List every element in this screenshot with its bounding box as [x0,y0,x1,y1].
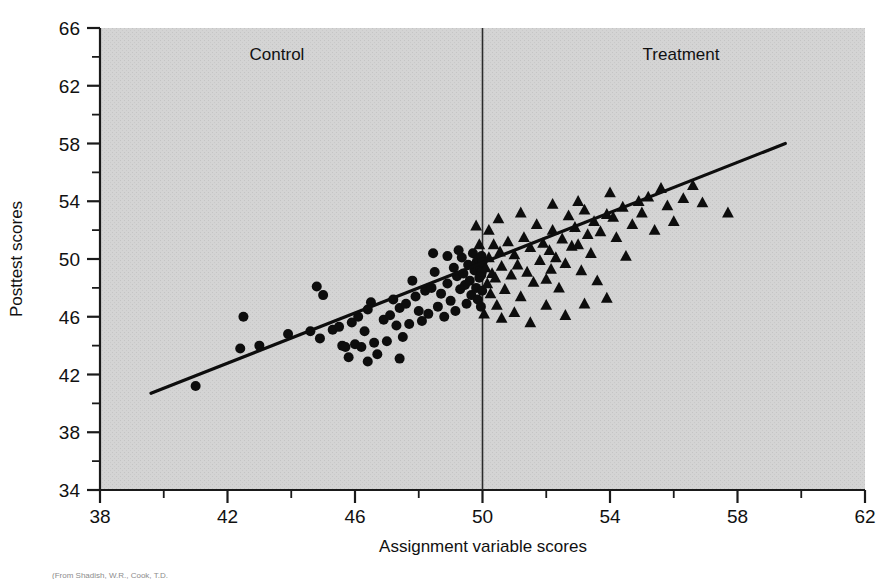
circle-marker [356,342,366,352]
y-axis-tick-label: 50 [59,249,80,270]
source-caption: (From Shadish, W.R., Cook, T.D. [52,571,168,579]
circle-marker [433,302,443,312]
circle-marker [407,276,417,286]
circle-marker [450,306,460,316]
scatter-plot-svg: 38424650545862 666258545046423834 Contro… [0,0,896,579]
x-axis-title: Assignment variable scores [379,537,587,556]
x-axis-tick-labels: 38424650545862 [89,506,875,527]
y-axis-tick-label: 54 [59,191,81,212]
y-axis-title: Posttest scores [7,201,26,317]
x-axis-tick-label: 38 [89,506,110,527]
circle-marker [191,381,201,391]
circle-marker [391,320,401,330]
y-axis-tick-label: 58 [59,134,80,155]
x-axis-tick-label: 42 [217,506,238,527]
circle-marker [446,296,456,306]
y-axis-tick-label: 46 [59,307,80,328]
x-axis-tick-label: 54 [599,506,621,527]
circle-marker [334,322,344,332]
circle-marker [423,309,433,319]
circle-marker [369,338,379,348]
circle-marker [372,349,382,359]
y-axis-tick-label: 38 [59,422,80,443]
circle-marker [238,312,248,322]
circle-marker [430,267,440,277]
circle-marker [436,289,446,299]
circle-marker [363,357,373,367]
y-axis-tick-label: 62 [59,76,80,97]
circle-marker [235,344,245,354]
y-axis-tick-labels: 666258545046423834 [59,18,81,501]
circle-marker [344,352,354,362]
control-group-label: Control [250,45,305,64]
x-axis-tick-label: 58 [727,506,748,527]
circle-marker [382,336,392,346]
circle-marker [385,310,395,320]
x-axis-tick-label: 46 [344,506,365,527]
circle-marker [462,299,472,309]
circle-marker [398,332,408,342]
circle-marker [401,299,411,309]
circle-marker [340,342,350,352]
x-axis-tick-label: 50 [472,506,493,527]
circle-marker [442,251,452,261]
circle-marker [395,354,405,364]
figure-container: 38424650545862 666258545046423834 Contro… [0,0,896,579]
circle-marker [312,281,322,291]
circle-marker [439,312,449,322]
circle-marker [428,248,438,258]
y-axis-tick-label: 42 [59,365,80,386]
y-axis-tick-label: 34 [59,480,81,501]
circle-marker [414,306,424,316]
circle-marker [411,292,421,302]
circle-marker [360,326,370,336]
circle-marker [442,279,452,289]
circle-marker [315,333,325,343]
treatment-group-label: Treatment [643,45,720,64]
x-axis-tick-label: 62 [854,506,875,527]
circle-marker [318,290,328,300]
y-axis-tick-label: 66 [59,18,80,39]
circle-marker [454,245,464,255]
circle-marker [404,319,414,329]
